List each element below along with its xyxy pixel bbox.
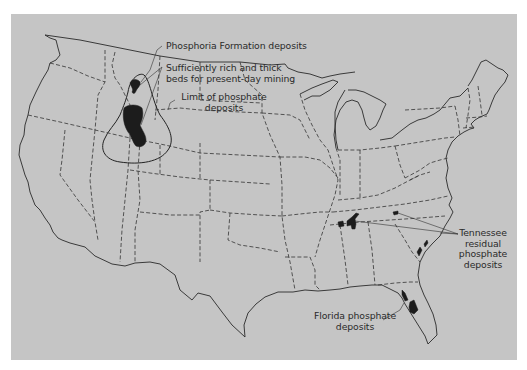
great-lakes: [300, 80, 468, 150]
pacific-coastline: [19, 35, 62, 240]
label-limit-line1: Limit of phosphate: [180, 92, 268, 103]
label-phosphoria-formation: Phosphoria Formation deposits: [166, 41, 307, 52]
us-map: [0, 0, 527, 370]
tennessee-deposit-west: [338, 221, 344, 227]
label-florida-deposits: Florida phosphate deposits: [307, 311, 403, 332]
label-limit-line2: deposits: [180, 103, 268, 114]
tennessee-deposit-east: [393, 211, 398, 215]
carolina-deposit: [417, 240, 428, 256]
leader-lines: [140, 46, 458, 320]
label-rich-beds-line1: Sufficiently rich and thick: [166, 63, 295, 74]
label-rich-beds-line2: beds for present-day mining: [166, 74, 295, 85]
mexico-border: [62, 240, 245, 337]
phosphoria-deposit-north: [130, 80, 140, 94]
label-rich-beds: Sufficiently rich and thick beds for pre…: [166, 63, 295, 84]
label-tennessee-line1: Tennessee: [455, 228, 511, 239]
florida-deposit-main: [409, 300, 418, 314]
label-florida-line1: Florida phosphate: [307, 311, 403, 322]
label-tennessee-deposits: Tennessee residual phosphate deposits: [455, 228, 511, 270]
label-florida-line2: deposits: [307, 322, 403, 333]
label-tennessee-line4: deposits: [455, 260, 511, 271]
phosphoria-deposit-main: [123, 105, 146, 147]
label-limit-of-phosphate: Limit of phosphate deposits: [180, 92, 268, 113]
label-phosphoria-text: Phosphoria Formation deposits: [166, 40, 307, 51]
